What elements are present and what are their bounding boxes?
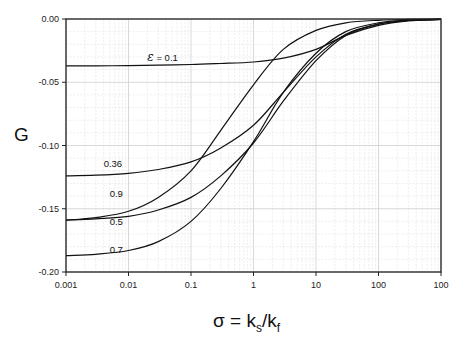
curve-label: 0.5 [110, 216, 123, 227]
y-tick-label: -0.15 [38, 204, 59, 214]
x-tick-label: 0.001 [55, 280, 78, 290]
curve-label: 0.36 [104, 158, 123, 169]
curve-label: 0.9 [110, 188, 123, 199]
x-tick-label: 0.01 [120, 280, 138, 290]
y-tick-label: -0.05 [38, 77, 59, 87]
y-tick-label: -0.10 [38, 141, 59, 151]
curve-label: 0.7 [110, 244, 123, 255]
x-axis-label-slash: /k [262, 310, 277, 331]
x-tick-label: 100 [433, 280, 448, 290]
x-axis-label: σ = ks/kf [213, 310, 281, 335]
x-tick-label: 1 [251, 280, 256, 290]
x-tick-label: 0.1 [185, 280, 198, 290]
epsilon-value: = 0.1 [154, 52, 178, 63]
x-tick-label: 10 [311, 280, 321, 290]
y-tick-label: 0.00 [41, 14, 59, 24]
x-tick-label: 100 [371, 280, 386, 290]
x-axis-label-main: σ = k [213, 310, 256, 331]
grid-lines [66, 19, 441, 272]
y-axis-label: G [14, 124, 29, 145]
x-axis-ticks: 0.0010.010.1110100100 [55, 272, 449, 290]
y-tick-label: -0.20 [38, 267, 59, 277]
curve-label: ε = 0.1 [147, 50, 178, 64]
chart: 0.00-0.05-0.10-0.15-0.20 0.0010.010.1110… [0, 0, 460, 343]
y-axis-ticks: 0.00-0.05-0.10-0.15-0.20 [38, 14, 66, 277]
x-axis-label-sub-f: f [277, 321, 281, 335]
